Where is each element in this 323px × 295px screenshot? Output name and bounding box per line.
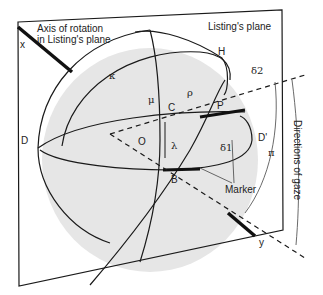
axis-label-line1: Axis of rotation xyxy=(37,24,103,34)
rho-label: ρ xyxy=(187,88,193,98)
H-label: H xyxy=(218,47,225,57)
B-label: B xyxy=(171,175,178,185)
mu-label: μ xyxy=(148,95,155,105)
delta1-label: δ1 xyxy=(220,143,232,153)
delta2-label: δ2 xyxy=(251,66,263,76)
C-label: C xyxy=(168,103,175,113)
lambda-label: λ xyxy=(171,141,177,151)
directions-of-gaze-label: Directions of gaze xyxy=(292,120,302,200)
O-label: O xyxy=(138,137,146,147)
D-prime-label: D' xyxy=(258,133,267,143)
axis-label-line2: in Listing's plane xyxy=(37,35,111,45)
y-label: y xyxy=(259,238,264,248)
kappa-label: κ xyxy=(109,71,115,81)
pi-label: π xyxy=(268,148,275,158)
D-label: D xyxy=(21,136,28,146)
x-label: x xyxy=(20,40,25,50)
marker-label: Marker xyxy=(225,185,256,195)
marker-rod-B xyxy=(163,169,200,170)
P-label: P xyxy=(217,101,224,111)
listings-plane-label: Listing's plane xyxy=(208,22,271,32)
